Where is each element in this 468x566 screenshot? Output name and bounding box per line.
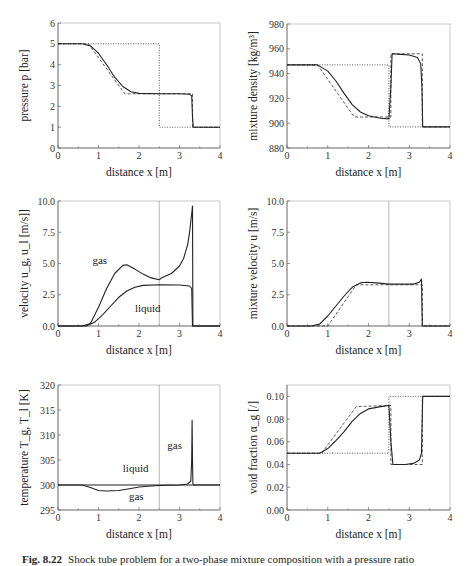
series-annotation: liquid — [123, 462, 149, 474]
x-tick-label: 1 — [96, 512, 101, 523]
y-axis-label: void fraction α_g [/] — [247, 401, 260, 494]
chart-mixture-velocity: 012340.02.55.07.510.0distance x [m]mixtu… — [247, 196, 453, 357]
caption-text: Shock tube problem for a two-phase mixtu… — [68, 553, 414, 565]
series-initial — [58, 44, 220, 127]
chart-temperature: 01234295300305310315320liquidgasgasdista… — [18, 380, 223, 541]
y-tick-label: 7.5 — [43, 227, 56, 238]
y-tick-label: 0.04 — [267, 459, 285, 470]
y-tick-label: 10.0 — [267, 196, 285, 207]
y-tick-label: 5 — [50, 38, 55, 49]
series-annotation: gas — [92, 254, 107, 266]
series-annotation: gas — [129, 490, 144, 502]
y-tick-label: 10.0 — [38, 196, 56, 207]
x-tick-label: 0 — [285, 150, 290, 161]
series-gas — [58, 420, 220, 491]
y-axis-label: mixture velocity u [m/s] — [247, 208, 260, 319]
y-tick-label: 4 — [50, 59, 55, 70]
x-tick-label: 3 — [407, 328, 412, 339]
x-tick-label: 4 — [218, 328, 223, 339]
x-tick-label: 0 — [56, 328, 61, 339]
x-tick-label: 0 — [285, 328, 290, 339]
y-tick-label: 2.5 — [272, 289, 285, 300]
x-axis-label: distance x [m] — [106, 344, 172, 356]
x-tick-label: 1 — [96, 328, 101, 339]
x-axis-label: distance x [m] — [336, 344, 402, 356]
y-tick-label: 0.08 — [267, 414, 285, 425]
series-annotation: gas — [167, 439, 182, 451]
y-tick-label: 960 — [269, 43, 284, 54]
y-tick-label: 315 — [40, 405, 55, 416]
x-tick-label: 2 — [366, 328, 371, 339]
x-tick-label: 4 — [448, 328, 453, 339]
series-numerical — [58, 44, 220, 127]
y-tick-label: 0.00 — [267, 505, 285, 516]
y-tick-label: 6 — [50, 18, 55, 29]
series-numerical — [287, 279, 450, 326]
x-axis-label: distance x [m] — [106, 166, 172, 178]
x-axis-label: distance x [m] — [336, 166, 402, 178]
y-tick-label: 305 — [40, 455, 55, 466]
y-axis-label: mixture density [kg/m³] — [247, 31, 260, 141]
series-exact — [58, 44, 220, 127]
x-tick-label: 1 — [96, 150, 101, 161]
series-numerical — [287, 54, 450, 127]
x-tick-label: 1 — [325, 328, 330, 339]
y-tick-label: 880 — [269, 143, 284, 154]
chart-density: 01234880900920940960980distance x [m]mix… — [247, 19, 453, 179]
x-tick-label: 2 — [137, 512, 142, 523]
y-axis-label: pressure p [bar] — [18, 49, 31, 121]
series-initial — [287, 396, 450, 453]
y-axis-label: temperature T_g, T_l [K] — [18, 389, 31, 505]
y-tick-label: 0.10 — [267, 391, 285, 402]
y-axis-label: velocity u_g, u_l [m/s]] — [18, 209, 31, 318]
y-tick-label: 900 — [269, 118, 284, 129]
y-tick-label: 980 — [269, 19, 284, 30]
x-tick-label: 2 — [137, 328, 142, 339]
chart-phase-velocity: 012340.02.55.07.510.0gasliquiddistance x… — [18, 196, 223, 357]
series-numerical — [287, 396, 450, 464]
x-tick-label: 1 — [325, 512, 330, 523]
plot-frame — [287, 24, 450, 148]
x-tick-label: 3 — [407, 512, 412, 523]
x-tick-label: 3 — [177, 328, 182, 339]
charts-svg: 012340123456distance x [m]pressure p [ba… — [0, 0, 468, 566]
y-tick-label: 0.0 — [272, 321, 285, 332]
x-tick-label: 3 — [177, 150, 182, 161]
y-tick-label: 1 — [50, 122, 55, 133]
chart-pressure: 012340123456distance x [m]pressure p [ba… — [18, 18, 223, 179]
plot-frame — [287, 201, 450, 326]
y-tick-label: 295 — [40, 505, 55, 516]
x-tick-label: 0 — [56, 150, 61, 161]
y-tick-label: 0.02 — [267, 482, 285, 493]
figure-caption: Fig. 8.22Shock tube problem for a two-ph… — [22, 553, 414, 565]
x-axis-label: distance x [m] — [106, 528, 172, 540]
y-tick-label: 920 — [269, 93, 284, 104]
series-exact — [287, 396, 450, 464]
x-tick-label: 0 — [56, 512, 61, 523]
y-tick-label: 5.0 — [43, 258, 56, 269]
chart-void-fraction: 012340.000.020.040.060.080.10distance x … — [247, 385, 453, 540]
y-tick-label: 3 — [50, 80, 55, 91]
y-tick-label: 320 — [40, 380, 55, 391]
plot-frame — [287, 385, 450, 510]
y-tick-label: 310 — [40, 430, 55, 441]
y-tick-label: 0.0 — [43, 321, 56, 332]
y-tick-label: 2 — [50, 101, 55, 112]
x-tick-label: 2 — [366, 512, 371, 523]
x-axis-label: distance x [m] — [336, 528, 402, 540]
y-tick-label: 300 — [40, 480, 55, 491]
plot-frame — [58, 23, 220, 148]
y-tick-label: 0.06 — [267, 436, 285, 447]
y-tick-label: 0 — [50, 143, 55, 154]
figure-number: Fig. 8.22 — [22, 553, 62, 565]
y-tick-label: 7.5 — [272, 227, 285, 238]
y-tick-label: 940 — [269, 68, 284, 79]
series-annotation: liquid — [135, 302, 161, 314]
x-tick-label: 4 — [448, 512, 453, 523]
x-tick-label: 1 — [325, 150, 330, 161]
x-tick-label: 0 — [285, 512, 290, 523]
series-exact — [287, 285, 450, 326]
series-initial — [287, 65, 450, 127]
y-tick-label: 5.0 — [272, 258, 285, 269]
x-tick-label: 4 — [448, 150, 453, 161]
